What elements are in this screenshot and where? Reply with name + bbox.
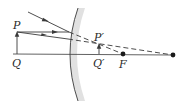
convex-mirror-diagram: P Q P′ Q′ F	[0, 0, 185, 110]
focal-point-dot	[121, 52, 126, 57]
reflected-ray-1	[28, 12, 69, 32]
ray-arrow-icon	[52, 30, 58, 34]
center-of-curvature-dot	[171, 53, 176, 58]
virtual-ray-to-center	[68, 39, 173, 55]
label-P: P	[12, 19, 21, 32]
principal-axis	[13, 54, 173, 55]
label-P-prime: P′	[93, 31, 104, 44]
ray-arrow-icon	[42, 18, 49, 22]
label-F: F	[118, 58, 127, 71]
label-Q-prime: Q′	[93, 57, 105, 70]
label-Q: Q	[12, 57, 21, 70]
